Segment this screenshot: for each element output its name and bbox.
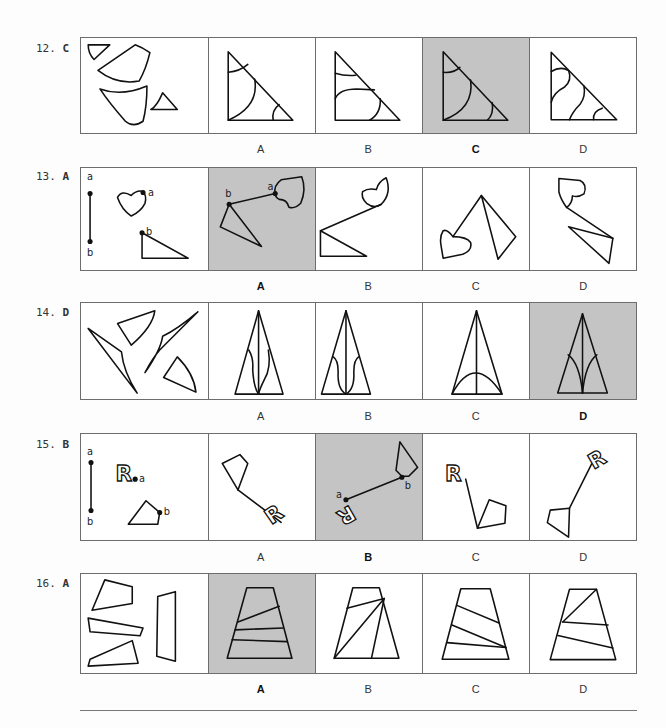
option-a[interactable]: R [208, 434, 315, 540]
option-c[interactable] [422, 168, 529, 270]
question-14-number: 14. D [36, 306, 69, 319]
option-b[interactable] [315, 574, 422, 673]
question-12-number: 12. C [36, 42, 69, 55]
r-pentagon-b: a b R [316, 434, 422, 540]
r-pentagon-d: R [530, 434, 636, 540]
footer-divider [80, 710, 637, 711]
pieces-figure [81, 303, 208, 399]
question-15-row: a b R a b R a b R [80, 433, 637, 541]
question-12-option-labels: A B C D [207, 143, 637, 155]
triangle-arcs-b [316, 38, 422, 133]
question-14-pieces [81, 303, 208, 399]
option-label-a: A [207, 143, 315, 155]
option-b[interactable] [315, 38, 422, 133]
option-c[interactable] [422, 38, 529, 133]
answer-key: C [63, 42, 70, 55]
letter-r-shape: R [333, 500, 360, 530]
question-15-number: 15. B [36, 438, 69, 451]
option-d[interactable] [529, 38, 636, 133]
letter-r-shape: R [116, 461, 133, 486]
question-12-row [80, 37, 637, 134]
option-label-d: D [530, 551, 638, 563]
option-c[interactable]: R [422, 434, 529, 540]
point-label-b: b [405, 480, 411, 491]
point-label-a: a [267, 181, 273, 192]
point-label-b: b [164, 506, 170, 517]
point-label-a: a [87, 171, 93, 182]
answer-key: B [63, 438, 70, 451]
option-d[interactable]: R [529, 434, 636, 540]
option-d[interactable] [529, 168, 636, 270]
question-number: 14. [36, 306, 56, 319]
heart-triangle-d [530, 168, 636, 270]
question-number: 15. [36, 438, 56, 451]
spear-d [530, 303, 636, 399]
option-label-b: B [315, 410, 423, 422]
trapezoid-a [209, 574, 315, 673]
question-15-option-labels: A B C D [207, 551, 637, 563]
point-label-b: b [87, 247, 93, 258]
question-13-row: a b a b b a [80, 167, 637, 271]
spear-b [316, 303, 422, 399]
heart-triangle-b [316, 168, 422, 270]
letter-r-shape: R [260, 499, 288, 529]
question-14-option-labels: A B C D [207, 410, 637, 422]
point-label-b: b [146, 226, 152, 237]
heart-triangle-c [423, 168, 529, 270]
option-label-b: B [315, 551, 423, 563]
pieces-figure: a b a b [81, 168, 208, 270]
option-a[interactable] [208, 574, 315, 673]
option-c[interactable] [422, 574, 529, 673]
point-label-a: a [336, 489, 342, 500]
question-15-pieces: a b R a b [81, 434, 208, 540]
option-a[interactable]: b a [208, 168, 315, 270]
pieces-figure [81, 574, 208, 673]
option-label-c: C [422, 280, 530, 292]
point-label-a: a [139, 473, 145, 484]
option-d[interactable] [529, 574, 636, 673]
triangle-arcs-d [530, 38, 636, 133]
option-label-a: A [207, 551, 315, 563]
option-label-a: A [207, 410, 315, 422]
option-label-c: C [422, 551, 530, 563]
option-label-a: A [207, 683, 315, 695]
option-label-c: C [422, 410, 530, 422]
triangle-arcs-a [209, 38, 315, 133]
question-16-option-labels: A B C D [207, 683, 637, 695]
answer-key: A [63, 170, 70, 183]
letter-r-shape: R [584, 444, 611, 474]
question-16-row [80, 573, 637, 674]
option-b[interactable] [315, 303, 422, 399]
option-label-b: B [315, 143, 423, 155]
point-label-b: b [225, 188, 231, 199]
triangle-arcs-c [423, 38, 529, 133]
point-label-a: a [87, 446, 93, 457]
question-16-pieces [81, 574, 208, 673]
r-pentagon-a: R [209, 434, 315, 540]
option-label-d: D [530, 410, 638, 422]
point-label-a: a [148, 187, 154, 198]
question-13-number: 13. A [36, 170, 69, 183]
letter-r-shape: R [445, 461, 462, 486]
answer-key: A [63, 577, 70, 590]
spear-a [209, 303, 315, 399]
trapezoid-b [316, 574, 422, 673]
question-number: 13. [36, 170, 56, 183]
option-a[interactable] [208, 38, 315, 133]
option-label-a: A [207, 280, 315, 292]
option-a[interactable] [208, 303, 315, 399]
option-label-b: B [315, 280, 423, 292]
option-b[interactable]: a b R [315, 434, 422, 540]
question-14-row [80, 302, 637, 400]
answer-key: D [63, 306, 70, 319]
option-c[interactable] [422, 303, 529, 399]
option-label-b: B [315, 683, 423, 695]
option-d[interactable] [529, 303, 636, 399]
question-number: 16. [36, 577, 56, 590]
heart-triangle-a: b a [209, 168, 315, 270]
option-b[interactable] [315, 168, 422, 270]
option-label-d: D [530, 683, 638, 695]
spear-c [423, 303, 529, 399]
trapezoid-d [530, 574, 636, 673]
question-13-option-labels: A B C D [207, 280, 637, 292]
